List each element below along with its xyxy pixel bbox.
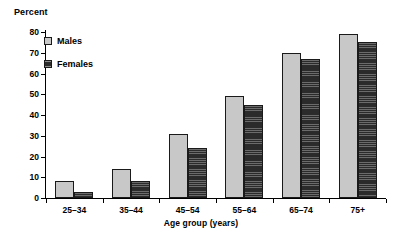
bar-females-35-44	[131, 181, 150, 198]
y-axis-tick-label: 70	[1, 49, 39, 58]
y-axis-tick-label: 80	[1, 28, 39, 37]
legend-swatch-females-icon	[44, 60, 52, 68]
legend-item-males: Males	[44, 33, 93, 49]
y-axis-tick-label: 20	[1, 153, 39, 162]
bar-females-65-74	[301, 59, 320, 198]
x-axis-tick-label: 45–54	[176, 205, 200, 215]
bar-females-45-54	[188, 148, 207, 198]
legend-label-females: Females	[57, 59, 93, 69]
x-axis-tick	[386, 199, 387, 203]
bar-females-75+	[358, 42, 377, 198]
legend-swatch-males-icon	[44, 37, 52, 45]
bars-layer	[46, 32, 386, 198]
bar-males-25-34	[55, 181, 74, 198]
x-axis-title: Age group (years)	[0, 218, 402, 228]
legend-label-males: Males	[57, 36, 82, 46]
x-axis-tick	[159, 199, 160, 203]
bar-males-55-64	[225, 96, 244, 198]
y-axis-title: Percent	[14, 7, 48, 17]
x-axis-tick-label: 55–64	[233, 205, 257, 215]
bar-females-55-64	[244, 105, 263, 198]
x-axis-tick	[46, 199, 47, 203]
bar-females-25-34	[74, 192, 93, 198]
bar-males-75+	[339, 34, 358, 198]
x-axis-tick	[329, 199, 330, 203]
x-axis-tick	[273, 199, 274, 203]
y-axis-tick	[41, 198, 45, 199]
bar-males-65-74	[282, 53, 301, 198]
y-axis-tick-label: 60	[1, 70, 39, 79]
y-axis-tick	[41, 157, 45, 158]
x-axis-tick-label: 75+	[350, 205, 364, 215]
y-axis-tick-label: 30	[1, 132, 39, 141]
y-axis-tick-label: 0	[1, 194, 39, 203]
y-axis-tick-label: 40	[1, 111, 39, 120]
y-axis-tick	[41, 177, 45, 178]
bar-chart: Percent 01020304050607080 25–3435–4445–5…	[0, 0, 402, 233]
x-axis-tick-label: 25–34	[63, 205, 87, 215]
y-axis-tick-label: 50	[1, 90, 39, 99]
bar-males-45-54	[169, 134, 188, 198]
x-axis-tick	[216, 199, 217, 203]
y-axis-tick	[41, 136, 45, 137]
y-axis-tick-label: 10	[1, 173, 39, 182]
bar-males-35-44	[112, 169, 131, 198]
y-axis-tick	[41, 94, 45, 95]
y-axis-tick	[41, 115, 45, 116]
legend: Males Females	[44, 33, 93, 79]
legend-item-females: Females	[44, 56, 93, 72]
x-axis-tick	[103, 199, 104, 203]
x-axis-tick-label: 65–74	[289, 205, 313, 215]
x-axis-tick-label: 35–44	[119, 205, 143, 215]
